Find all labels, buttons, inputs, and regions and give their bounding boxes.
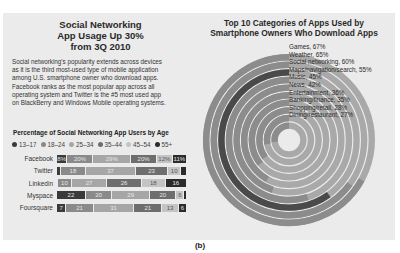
text-line: among U.S. smartphone owner who download… (12, 74, 194, 82)
bar-segment: 6 (176, 191, 184, 199)
radial-labels: Games, 67%Weather, 65%Social networking,… (289, 43, 372, 119)
legend-item: 25–34 (69, 141, 94, 148)
ring-value-arc (275, 126, 289, 142)
bar-segment: 37 (86, 167, 137, 175)
bar-segment (181, 167, 186, 175)
legend-dot-icon (69, 142, 74, 147)
ring-label: Shopping/retail, 28% (289, 104, 372, 112)
bar-segment: 21 (66, 204, 94, 212)
legend-dot-icon (98, 142, 103, 147)
legend-label: 35–44 (105, 141, 123, 148)
bar-segment: 18 (61, 167, 86, 175)
stacked-bar: 8%20%29%20%12%11% (57, 155, 187, 163)
text-line: Social networking's popularity extends a… (12, 58, 194, 66)
text-line: operating system and Twitter is the #5 m… (12, 91, 194, 99)
title-line: from 3Q 2010 (13, 41, 188, 52)
bar-row: Myspace222029206 (7, 191, 192, 200)
bar-row: Foursquare7213121136 (7, 203, 192, 212)
stacked-bar: 1027261816 (57, 179, 187, 187)
ring-label: Banking/finance, 35% (289, 96, 372, 104)
legend-dot-icon (155, 142, 160, 147)
bar-segment: 29% (93, 155, 131, 163)
bar-segment: 7 (57, 204, 66, 212)
bar-segment: 13 (162, 204, 179, 212)
legend-item: 18–24 (41, 141, 66, 148)
stacked-bar-chart: Facebook8%20%29%20%12%11%Twitter18372310… (7, 154, 192, 215)
legend-label: 45–54 (133, 141, 151, 148)
legend-item: 45–54 (126, 141, 151, 148)
bar-segment (184, 191, 187, 199)
ring-label: Weather, 65% (289, 51, 372, 59)
legend-item: 13–17 (12, 141, 37, 148)
bar-segment: 22 (57, 191, 86, 199)
stacked-bar: 7213121136 (57, 204, 187, 212)
bar-segment: 26 (107, 179, 141, 187)
bar-row-label: Foursquare (7, 204, 57, 211)
bar-segment: 29 (112, 191, 150, 199)
legend-label: 55+ (162, 141, 173, 148)
bar-row: Twitter18372310 (7, 166, 192, 175)
legend-dot-icon (41, 142, 46, 147)
bar-segment: 20 (86, 191, 112, 199)
bar-segment: 27 (72, 179, 108, 187)
bar-segment: 23 (136, 167, 167, 175)
ring-label: Maps/navigation/search, 55% (289, 66, 372, 74)
bar-segment: 20% (131, 155, 157, 163)
ring-label: Music, 45% (289, 73, 372, 81)
bar-segment: 10 (58, 179, 71, 187)
title-line: App Usage Up 30% (13, 30, 188, 41)
bar-segment: 8% (57, 155, 67, 163)
bar-segment: 6 (179, 204, 187, 212)
bar-segment: 16 (166, 179, 187, 187)
bar-chart-title: Percentage of Social Networking App User… (13, 129, 198, 136)
description-text: Social networking's popularity extends a… (12, 58, 194, 107)
legend-dot-icon (126, 142, 131, 147)
bar-segment: 12% (157, 155, 173, 163)
social-networking-section: Social Networking App Usage Up 30% from … (3, 13, 193, 240)
bar-segment: 20 (150, 191, 176, 199)
figure-caption: (b) (0, 241, 400, 250)
ring-label: Entertainment, 36% (289, 89, 372, 97)
ring-label: News, 42% (289, 81, 372, 89)
bar-row: Facebook8%20%29%20%12%11% (7, 154, 192, 163)
bar-row: Linkedin1027261816 (7, 179, 192, 188)
ring-label: Dining/restaurant, 27% (289, 111, 372, 119)
legend-item: 55+ (155, 141, 173, 148)
ring-label: Social networking, 60% (289, 58, 372, 66)
title-line: Social Networking (13, 19, 188, 30)
bar-row-label: Twitter (7, 167, 57, 174)
bar-row-label: Linkedin (7, 180, 57, 187)
legend-label: 18–24 (48, 141, 66, 148)
text-line: Facebook ranks as the most popular app a… (12, 83, 194, 91)
bar-segment: 10 (168, 167, 182, 175)
bar-segment: 20% (67, 155, 93, 163)
bar-segment: 21 (134, 204, 162, 212)
bar-segment: 11% (173, 155, 187, 163)
bar-row-label: Myspace (7, 192, 57, 199)
ring-label: Games, 67% (289, 43, 372, 51)
bar-row-label: Facebook (7, 155, 57, 162)
bar-segment: 18 (142, 179, 166, 187)
age-legend: 13–1718–2425–3435–4445–5455+ (12, 141, 202, 148)
text-line: on BlackBerry and Windows Mobile operati… (12, 99, 194, 107)
text-line: as it is the third most-used type of mob… (12, 66, 194, 74)
stacked-bar: 222029206 (57, 191, 187, 199)
legend-dot-icon (12, 142, 17, 147)
legend-item: 35–44 (98, 141, 123, 148)
infographic-panel: Social Networking App Usage Up 30% from … (3, 13, 395, 240)
legend-label: 25–34 (76, 141, 94, 148)
section-title: Social Networking App Usage Up 30% from … (13, 19, 188, 52)
legend-label: 13–17 (19, 141, 37, 148)
top-categories-section: Top 10 Categories of Apps Used by Smartp… (193, 13, 395, 240)
stacked-bar: 18372310 (57, 167, 187, 175)
bar-segment: 31 (94, 204, 135, 212)
